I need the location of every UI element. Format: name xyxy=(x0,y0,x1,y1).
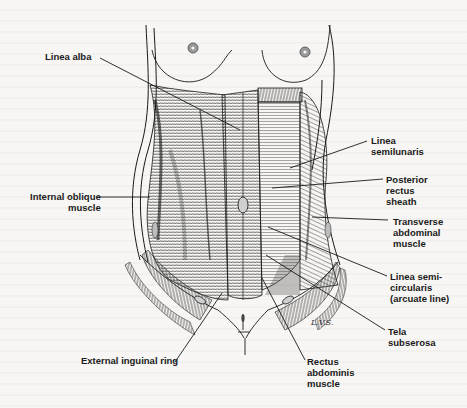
umbilicus xyxy=(238,197,248,213)
label-internal-oblique-muscle: Internal oblique muscle xyxy=(30,191,101,213)
breasts xyxy=(152,25,330,82)
right-lateral-muscles xyxy=(300,92,338,290)
label-external-inguinal-ring: External inguinal ring xyxy=(81,355,178,366)
label-tela-subserosa: Tela subserosa xyxy=(388,326,436,348)
label-transverse-abdominal-muscle: Transverse abdominal muscle xyxy=(393,216,443,249)
label-linea-semilunaris: Linea semilunaris xyxy=(371,135,424,157)
label-posterior-rectus-sheath: Posterior rectus sheath xyxy=(386,174,428,207)
label-linea-alba: Linea alba xyxy=(45,51,91,62)
label-rectus-abdominis-muscle: Rectus abdominis muscle xyxy=(307,356,355,389)
label-linea-semicircularis: Linea semi- circularis (arcuate line) xyxy=(390,271,449,304)
rectus-sheath xyxy=(222,90,262,299)
artist-signature: L.V.S. xyxy=(311,318,334,327)
